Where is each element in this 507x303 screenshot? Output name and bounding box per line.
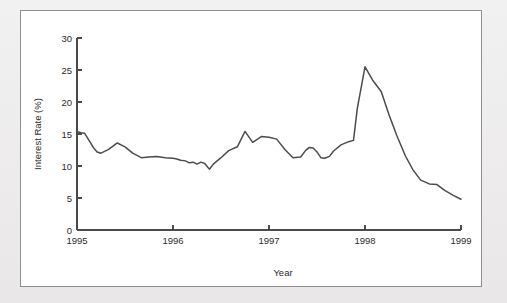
line-chart: 051015202530 19951996199719981999 Year I…	[21, 11, 483, 288]
y-tick-label: 0	[67, 225, 72, 236]
y-tick-label: 30	[61, 33, 72, 44]
y-tick-label: 10	[61, 161, 72, 172]
x-tick-label: 1999	[450, 235, 471, 246]
y-axis-title: Interest Rate (%)	[32, 98, 43, 170]
page-container: 051015202530 19951996199719981999 Year I…	[0, 0, 507, 303]
interest-rate-line	[77, 67, 461, 199]
y-tick-label: 5	[67, 193, 72, 204]
y-tick-group: 051015202530	[61, 33, 82, 236]
x-tick-label: 1997	[258, 235, 279, 246]
x-tick-group: 19951996199719981999	[66, 225, 471, 246]
figure-panel: 051015202530 19951996199719981999 Year I…	[20, 10, 482, 287]
y-tick-label: 20	[61, 97, 72, 108]
y-tick-label: 15	[61, 129, 72, 140]
x-axis-title: Year	[273, 267, 292, 278]
x-tick-label: 1995	[66, 235, 87, 246]
x-tick-label: 1996	[162, 235, 183, 246]
y-tick-label: 25	[61, 65, 72, 76]
x-tick-label: 1998	[354, 235, 375, 246]
